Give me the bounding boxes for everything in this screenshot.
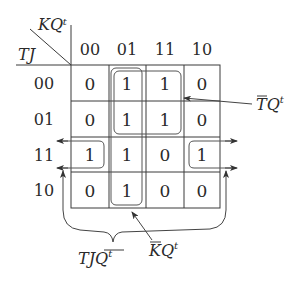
row-variable-label: TJ bbox=[18, 45, 37, 64]
cell: 0 bbox=[85, 181, 96, 201]
kbar-q-pointer-arrow bbox=[132, 212, 152, 240]
cell: 0 bbox=[160, 181, 171, 201]
row-header: 11 bbox=[34, 146, 54, 165]
column-variable-label: KQᵗ bbox=[37, 15, 67, 34]
column-header: 00 bbox=[80, 40, 100, 59]
cell: 1 bbox=[122, 74, 133, 94]
cell: 0 bbox=[85, 74, 96, 94]
cell: 0 bbox=[85, 110, 96, 130]
column-header: 11 bbox=[155, 40, 175, 59]
cell: 1 bbox=[160, 74, 171, 94]
cell: 1 bbox=[122, 145, 133, 165]
group-tj-qbar-left bbox=[58, 141, 104, 168]
label-tj-qbar: TJQt bbox=[78, 248, 124, 268]
corner-diagonal bbox=[30, 29, 71, 65]
cell: 0 bbox=[197, 110, 208, 130]
cell: 1 bbox=[85, 145, 96, 165]
svg-text:KQt: KQt bbox=[148, 240, 179, 260]
karnaugh-map-diagram: KQᵗ TJ 00 01 11 10 00 01 11 10 0 1 1 0 0… bbox=[0, 0, 307, 286]
column-header: 10 bbox=[192, 40, 212, 59]
cell: 1 bbox=[122, 181, 133, 201]
row-header: 01 bbox=[34, 110, 54, 129]
cell: 0 bbox=[160, 145, 171, 165]
svg-text:TJQt: TJQt bbox=[78, 248, 113, 268]
label-tbar-q: TQt bbox=[256, 94, 285, 114]
cell: 0 bbox=[197, 181, 208, 201]
cell: 1 bbox=[197, 145, 208, 165]
cell: 0 bbox=[197, 74, 208, 94]
svg-text:TQt: TQt bbox=[256, 94, 285, 114]
cell: 1 bbox=[160, 110, 171, 130]
row-header: 00 bbox=[34, 74, 54, 93]
label-kbar-q: KQt bbox=[148, 240, 179, 260]
column-header: 01 bbox=[117, 40, 137, 59]
brace bbox=[63, 210, 226, 242]
cell: 1 bbox=[122, 110, 133, 130]
row-header: 10 bbox=[34, 181, 54, 200]
